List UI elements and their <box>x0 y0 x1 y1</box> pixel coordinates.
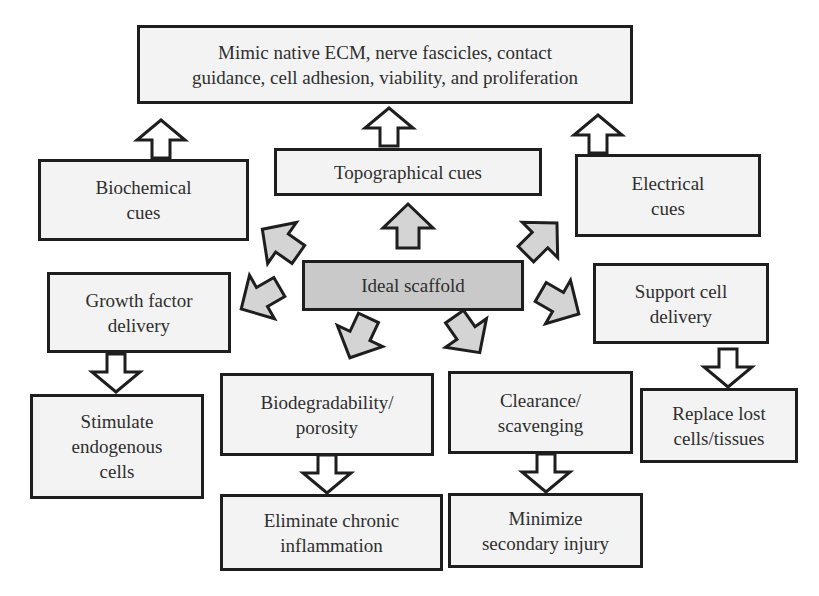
electrical-cues-label: Electrical cues <box>632 171 705 221</box>
support-cell-delivery-box: Support cell delivery <box>593 263 769 344</box>
arrow-electrical-to-top <box>574 115 622 153</box>
eliminate-chronic-inflammation-label: Eliminate chronic inflammation <box>264 508 400 558</box>
topographical-cues-box: Topographical cues <box>274 148 542 196</box>
arrow-biodegradability-to-eliminate <box>303 455 351 493</box>
support-cell-delivery-label: Support cell delivery <box>635 279 727 329</box>
arrow-support-cell-to-replace <box>704 349 752 387</box>
arrow-center-to-support-cell <box>528 270 591 335</box>
growth-factor-delivery-box: Growth factor delivery <box>47 272 231 353</box>
minimize-secondary-injury-label: Minimize secondary injury <box>482 506 609 556</box>
ideal-scaffold-label: Ideal scaffold <box>361 273 465 298</box>
electrical-cues-box: Electrical cues <box>575 154 761 237</box>
eliminate-chronic-inflammation-box: Eliminate chronic inflammation <box>220 494 443 571</box>
growth-factor-delivery-label: Growth factor delivery <box>85 288 192 338</box>
stimulate-endogenous-cells-box: Stimulate endogenous cells <box>30 394 204 499</box>
topographical-cues-label: Topographical cues <box>334 160 482 185</box>
arrow-clearance-to-minimize <box>522 454 570 492</box>
arrow-center-to-clearance <box>434 302 500 367</box>
arrow-growth-factor-to-stimulate <box>92 354 140 392</box>
stimulate-endogenous-cells-label: Stimulate endogenous cells <box>72 409 163 484</box>
arrow-biochemical-to-top <box>137 120 185 158</box>
replace-lost-cells-box: Replace lost cells/tissues <box>640 388 798 463</box>
outcome-top-label: Mimic native ECM, nerve fascicles, conta… <box>192 40 578 90</box>
biochemical-cues-label: Biochemical cues <box>95 175 191 225</box>
arrow-center-to-growth-factor <box>229 265 292 330</box>
ideal-scaffold-box: Ideal scaffold <box>302 260 524 311</box>
biochemical-cues-box: Biochemical cues <box>38 159 249 241</box>
minimize-secondary-injury-box: Minimize secondary injury <box>448 493 643 568</box>
replace-lost-cells-label: Replace lost cells/tissues <box>672 401 765 451</box>
biodegradability-porosity-box: Biodegradability/ porosity <box>220 373 434 456</box>
arrow-center-to-topographical <box>383 204 433 248</box>
clearance-scavenging-box: Clearance/ scavenging <box>448 371 633 454</box>
clearance-scavenging-label: Clearance/ scavenging <box>498 388 583 438</box>
arrow-topographical-to-top <box>365 108 413 146</box>
outcome-top-box: Mimic native ECM, nerve fascicles, conta… <box>137 25 633 104</box>
biodegradability-porosity-label: Biodegradability/ porosity <box>261 390 394 440</box>
arrow-center-to-biodegradability <box>327 307 391 368</box>
